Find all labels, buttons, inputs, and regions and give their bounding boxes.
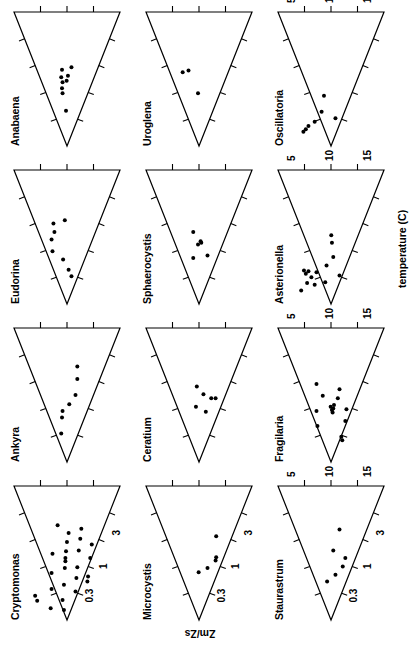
panel-title-microcystis: Microcystis	[141, 563, 153, 620]
data-point	[325, 263, 329, 267]
x-axis-title: temperature (C)	[396, 210, 408, 288]
data-point	[197, 570, 201, 574]
data-point	[59, 432, 63, 436]
data-point	[67, 268, 71, 272]
data-point	[85, 579, 89, 583]
habitat-triangle	[278, 12, 384, 146]
data-point	[90, 543, 94, 547]
panel-title-cryptomonas: Cryptomonas	[9, 553, 21, 620]
panel-plot-ceratium	[140, 316, 258, 468]
data-point	[60, 416, 64, 420]
panel-plot-microcystis	[140, 474, 258, 626]
panel-fragilaria: Fragilaria51015	[272, 316, 390, 468]
data-point	[339, 435, 343, 439]
data-point	[75, 377, 79, 381]
data-point	[214, 555, 218, 559]
data-point	[61, 80, 65, 84]
panel-title-oscillatoria: Oscillatoria	[273, 90, 285, 146]
data-point	[309, 275, 313, 279]
x-tick-label: 5	[286, 155, 297, 161]
data-point	[332, 403, 336, 407]
data-point	[305, 281, 309, 285]
y-tick-label: 3	[375, 530, 386, 536]
data-point	[206, 253, 210, 257]
habitat-triangle	[146, 12, 252, 146]
data-point	[75, 565, 79, 569]
y-tick-label: 1	[230, 563, 241, 569]
panel-asterionella: Asterionella51015	[272, 158, 390, 310]
figure-rotation-wrapper: Cryptomonas0.313AnkyraEudorinaAnabaenaMi…	[0, 0, 416, 660]
data-point	[344, 407, 348, 411]
x-tick-label: 5	[286, 471, 297, 477]
habitat-triangle	[278, 328, 384, 462]
habitat-triangle	[14, 328, 120, 462]
data-point	[320, 110, 324, 114]
data-point	[63, 566, 67, 570]
panel-title-staurastrum: Staurastrum	[273, 559, 285, 620]
habitat-triangle	[146, 486, 252, 620]
panel-ankyra: Ankyra	[8, 316, 126, 468]
data-point	[78, 537, 82, 541]
data-point	[191, 230, 195, 234]
habitat-triangle	[146, 328, 252, 462]
data-point	[306, 269, 310, 273]
panel-plot-fragilaria	[272, 316, 390, 468]
data-point	[329, 233, 333, 237]
data-point	[61, 91, 65, 95]
data-point	[194, 405, 198, 409]
panel-plot-asterionella	[272, 158, 390, 310]
data-point	[331, 548, 335, 552]
phytoplankton-habitat-figure: Cryptomonas0.313AnkyraEudorinaAnabaenaMi…	[0, 0, 416, 660]
y-tick-label: 0.3	[348, 589, 359, 603]
data-point	[77, 548, 81, 552]
data-point	[74, 576, 78, 580]
data-point	[338, 274, 342, 278]
habitat-triangle	[146, 170, 252, 304]
data-point	[33, 594, 37, 598]
data-point	[79, 527, 83, 531]
data-point	[66, 74, 70, 78]
data-point	[59, 75, 63, 79]
data-point	[60, 86, 64, 90]
panel-plot-ankyra	[8, 316, 126, 468]
data-point	[314, 270, 318, 274]
panel-plot-uroglena	[140, 0, 258, 152]
data-point	[191, 256, 195, 260]
data-point	[60, 68, 64, 72]
panel-plot-sphaerocystis	[140, 158, 258, 310]
panel-eudorina: Eudorina	[8, 158, 126, 310]
data-point	[313, 283, 317, 287]
data-point	[302, 269, 306, 273]
x-tick-label: 5	[286, 313, 297, 319]
panel-plot-eudorina	[8, 158, 126, 310]
data-point	[299, 289, 303, 293]
data-point	[64, 109, 68, 113]
data-point	[62, 608, 66, 612]
panel-title-ankyra: Ankyra	[9, 427, 21, 462]
data-point	[314, 382, 318, 386]
data-point	[63, 556, 67, 560]
y-tick-label: 3	[243, 530, 254, 536]
data-point	[343, 556, 347, 560]
data-point	[206, 566, 210, 570]
panel-uroglena: Uroglena	[140, 0, 258, 152]
panel-title-uroglena: Uroglena	[141, 101, 153, 146]
panel-title-ceratium: Ceratium	[141, 417, 153, 462]
panel-plot-oscillatoria	[272, 0, 390, 152]
data-point	[341, 564, 345, 568]
data-point	[322, 94, 326, 98]
data-point	[67, 531, 71, 535]
data-point	[52, 230, 56, 234]
x-tick-label: 10	[324, 0, 335, 3]
data-point	[338, 387, 342, 391]
data-point	[214, 396, 218, 400]
data-point	[35, 599, 39, 603]
panel-ceratium: Ceratium	[140, 316, 258, 468]
panel-plot-cryptomonas	[8, 474, 126, 626]
data-point	[50, 552, 54, 556]
data-point	[62, 583, 66, 587]
data-point	[209, 396, 213, 400]
panel-staurastrum: Staurastrum510150.313	[272, 474, 390, 626]
data-point	[50, 249, 54, 253]
data-point	[199, 241, 203, 245]
